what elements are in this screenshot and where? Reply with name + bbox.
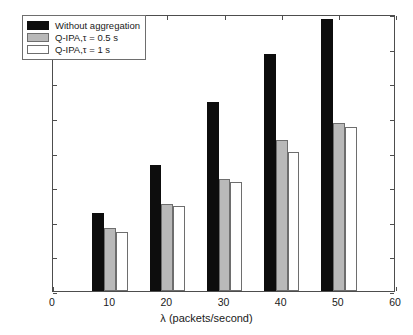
bar [150, 165, 162, 291]
bar [116, 232, 128, 291]
y-axis-tick [53, 120, 57, 121]
legend-item: Without aggregation [27, 20, 140, 31]
x-axis-tick [396, 287, 397, 291]
bar [345, 127, 357, 291]
x-axis-title: λ (packets/second) [0, 312, 413, 324]
x-axis-tick-label: 20 [160, 296, 172, 308]
x-axis-tick-label: 0 [49, 296, 55, 308]
legend-swatch-icon [27, 45, 49, 54]
x-axis-tick [396, 16, 397, 20]
y-axis-tick [53, 293, 57, 294]
y-axis-tick [390, 258, 394, 259]
bar [219, 179, 231, 291]
y-axis-tick [53, 155, 57, 156]
chart-figure: Energ consumption (J/s) λ (packets/secon… [0, 0, 413, 335]
x-axis-tick [282, 16, 283, 20]
y-axis-tick [390, 16, 394, 17]
bar [230, 182, 242, 291]
y-axis-tick [390, 293, 394, 294]
y-axis-tick [390, 155, 394, 156]
y-axis-tick [390, 85, 394, 86]
y-axis-tick [53, 85, 57, 86]
y-axis-tick [53, 224, 57, 225]
x-axis-tick [53, 287, 54, 291]
chart-legend: Without aggregationQ-IPA,τ = 0.5 sQ-IPA,… [22, 15, 146, 60]
bar [333, 123, 345, 291]
bar [207, 102, 219, 291]
legend-item: Q-IPA,τ = 1 s [27, 44, 140, 55]
y-axis-tick [390, 189, 394, 190]
bar [288, 152, 300, 291]
y-axis-tick [390, 51, 394, 52]
x-axis-tick [339, 16, 340, 20]
y-axis-tick [53, 189, 57, 190]
legend-item-label: Q-IPA,τ = 0.5 s [55, 32, 118, 43]
bar [161, 204, 173, 291]
bar [321, 19, 333, 291]
x-axis-tick [167, 16, 168, 20]
bar [264, 54, 276, 291]
bar [173, 206, 185, 291]
legend-swatch-icon [27, 21, 49, 30]
y-axis-tick [390, 224, 394, 225]
bar [92, 213, 104, 291]
legend-item-label: Q-IPA,τ = 1 s [55, 44, 110, 55]
bar [104, 228, 116, 291]
x-axis-tick-label: 10 [103, 296, 115, 308]
x-axis-tick-label: 30 [218, 296, 230, 308]
legend-item: Q-IPA,τ = 0.5 s [27, 32, 140, 43]
x-axis-tick-label: 60 [389, 296, 401, 308]
legend-swatch-icon [27, 33, 49, 42]
legend-item-label: Without aggregation [55, 20, 140, 31]
x-axis-tick [225, 16, 226, 20]
y-axis-tick [390, 120, 394, 121]
y-axis-tick [53, 258, 57, 259]
x-axis-tick-label: 50 [332, 296, 344, 308]
x-axis-tick-label: 40 [275, 296, 287, 308]
bar [276, 140, 288, 291]
